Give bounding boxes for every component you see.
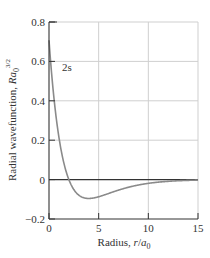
y-axis-title: Radial wavefunction, Ra03/2 bbox=[4, 58, 21, 181]
y-tick-label: 0.2 bbox=[31, 134, 45, 146]
axes bbox=[49, 22, 198, 219]
y-tick-labels: −0.200.20.40.60.8 bbox=[25, 16, 45, 225]
x-tick-label: 10 bbox=[143, 222, 155, 234]
curve-label-2s: 2s bbox=[62, 61, 72, 73]
y-tick-label: −0.2 bbox=[25, 213, 45, 225]
y-tick-label: 0.8 bbox=[31, 16, 45, 28]
gridlines bbox=[49, 22, 198, 219]
x-tick-labels: 051015 bbox=[46, 222, 204, 234]
y-tick-label: 0.4 bbox=[31, 95, 45, 107]
x-tick-label: 5 bbox=[96, 222, 102, 234]
x-tick-label: 0 bbox=[46, 222, 52, 234]
x-axis-title: Radius, r/a0 bbox=[98, 236, 151, 251]
y-tick-label: 0 bbox=[40, 174, 46, 186]
y-tick-label: 0.6 bbox=[31, 55, 45, 67]
chart: −0.200.20.40.60.8 051015 2s Radius, r/a0… bbox=[0, 0, 210, 258]
x-tick-label: 15 bbox=[193, 222, 205, 234]
